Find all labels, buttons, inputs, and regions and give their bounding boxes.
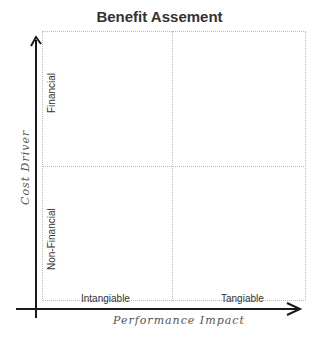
y-axis-title: Cost Driver (19, 130, 32, 205)
label-intangiable: Intangiable (81, 293, 130, 304)
label-non-financial: Non-Financial (46, 208, 57, 270)
x-axis-title: Performance Impact (113, 314, 245, 327)
label-financial: Financial (46, 73, 57, 113)
label-tangiable: Tangiable (221, 293, 264, 304)
axes-arrows (0, 0, 319, 340)
